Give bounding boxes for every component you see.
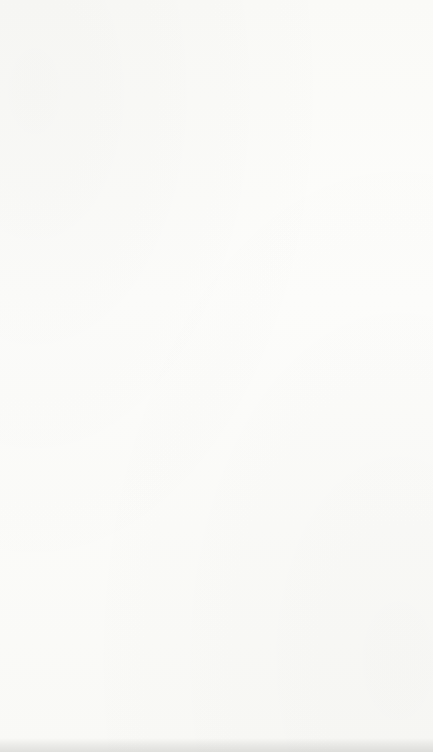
node-label-base: E bbox=[200, 238, 211, 244]
box-line-1: School bbox=[249, 443, 260, 483]
fan-t2-e2 bbox=[188, 190, 222, 221]
node-label-sub: 3 bbox=[310, 309, 318, 313]
node-t2-e1[interactable]: E 1 bbox=[135, 218, 169, 252]
edge-total-nonschool bbox=[303, 531, 352, 570]
fan-t1-e2 bbox=[240, 268, 274, 299]
fan-group bbox=[138, 114, 391, 396]
figure-page: E 1 E 2 E 3 E 1 bbox=[0, 0, 433, 752]
edge-school-t1e3 bbox=[272, 327, 300, 396]
node-t4-e2[interactable]: E 2 bbox=[88, 48, 118, 78]
node-t2-e3[interactable]: E 3 bbox=[240, 219, 272, 251]
node-label-base: E bbox=[48, 66, 59, 72]
node-t1-e3[interactable]: E 3 bbox=[294, 297, 326, 329]
box-line-2: School and bbox=[318, 614, 329, 681]
fan-t3-e2 bbox=[138, 114, 172, 145]
node-label-sub: 2 bbox=[155, 156, 163, 160]
box-line-3: Non-School bbox=[332, 614, 343, 681]
node-label-sub: 1 bbox=[152, 231, 160, 235]
node-label-sub: 3 bbox=[151, 59, 159, 63]
node-label-sub: 2 bbox=[257, 309, 265, 313]
edge-t1e1-t2e3 bbox=[220, 247, 244, 303]
box-school-sample[interactable]: School Sample bbox=[228, 396, 296, 531]
node-label-base: E bbox=[98, 66, 109, 72]
fan-non-school-box bbox=[357, 368, 391, 396]
box-line-1: Non-School bbox=[361, 429, 372, 496]
node-t1-e2[interactable]: E 2 bbox=[242, 298, 272, 328]
node-label-sub: 1 bbox=[104, 156, 112, 160]
box-total-sample[interactable]: Total Sample School and Non-School bbox=[288, 570, 360, 725]
node-label-base: E bbox=[201, 163, 212, 169]
edge-t2e1-t3e2 bbox=[154, 175, 155, 218]
entry-label-admission: Admission bbox=[269, 615, 280, 676]
node-label-sub: 3 bbox=[206, 156, 214, 160]
fan-t3-e3 bbox=[189, 114, 223, 145]
tree-diagram: E 1 E 2 E 3 E 1 bbox=[0, 0, 433, 752]
time-label-t1: t=1 yr. bbox=[163, 284, 174, 329]
node-label-base: E bbox=[146, 66, 157, 72]
time-label-t2: t=2 yrs. bbox=[109, 200, 120, 251]
fan-t1-e3 bbox=[293, 267, 327, 298]
node-label-sub: 1 bbox=[207, 309, 215, 313]
edge-t1e1-t2e2 bbox=[205, 250, 206, 296]
figure-caption: Figure 1 bbox=[119, 625, 134, 691]
box-line-2: Sample bbox=[375, 443, 386, 483]
node-label-sub: 3 bbox=[256, 231, 264, 235]
edge-school-t1e2 bbox=[257, 328, 258, 396]
edge-total-school bbox=[262, 531, 300, 570]
node-label-base: E bbox=[147, 238, 158, 244]
node-t3-e2[interactable]: E 2 bbox=[140, 145, 170, 175]
box-line-2: Sample bbox=[263, 443, 274, 483]
node-label-base: E bbox=[305, 316, 316, 322]
box-outline bbox=[228, 396, 296, 531]
edge-school-t1e1 bbox=[214, 329, 245, 396]
edge-t3e1-t4e2 bbox=[103, 78, 104, 144]
node-label-sub: 1 bbox=[53, 59, 61, 63]
node-t4-e3[interactable]: E 3 bbox=[136, 48, 166, 78]
time-label-t3: t=3 yrs. bbox=[63, 116, 74, 167]
node-t4-e1[interactable]: E 1 bbox=[38, 48, 68, 78]
node-label-sub: 2 bbox=[205, 231, 213, 235]
node-t1-e1[interactable]: E 1 bbox=[190, 296, 224, 330]
time-label-t4: t=4 yrs. bbox=[39, 78, 50, 129]
node-label-base: E bbox=[99, 163, 110, 169]
box-non-school-sample[interactable]: Non-School Sample bbox=[340, 396, 408, 531]
node-label-base: E bbox=[202, 316, 213, 322]
node-label-base: E bbox=[251, 238, 262, 244]
box-outline bbox=[340, 396, 408, 531]
node-t2-e2[interactable]: E 2 bbox=[190, 220, 220, 250]
node-t3-e1[interactable]: E 1 bbox=[88, 144, 120, 176]
node-label-sub: 2 bbox=[103, 59, 111, 63]
fan-t2-e3 bbox=[239, 189, 273, 220]
edge-t3e1-t4e3 bbox=[116, 74, 142, 150]
box-line-1: Total Sample bbox=[304, 608, 315, 689]
node-label-base: E bbox=[252, 316, 263, 322]
node-t3-e3[interactable]: E 3 bbox=[190, 144, 222, 176]
interval-label-3-months: 3 months bbox=[206, 436, 217, 490]
node-label-base: E bbox=[150, 163, 161, 169]
